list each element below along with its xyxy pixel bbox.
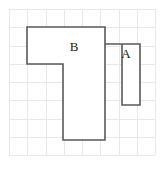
shape-b	[27, 27, 105, 140]
shapes-group	[27, 27, 140, 140]
shape-label-a: A	[121, 46, 131, 61]
figure-canvas: BA	[0, 0, 162, 172]
shape-label-b: B	[70, 39, 79, 54]
grid-shapes-figure: BA	[0, 0, 162, 172]
